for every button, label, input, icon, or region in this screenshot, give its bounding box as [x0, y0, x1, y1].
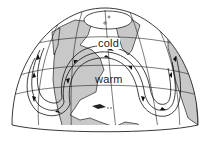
south-america-land — [108, 122, 150, 145]
jet-stream-globe-diagram: cold warm — [0, 0, 210, 151]
cold-label: cold — [97, 38, 120, 49]
warm-label: warm — [95, 74, 123, 85]
polar-cap — [84, 11, 132, 29]
